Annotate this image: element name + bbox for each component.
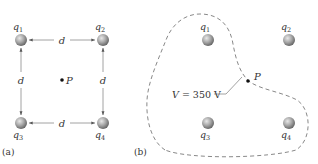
svg-text:q3: q3 (13, 129, 23, 142)
charge-sphere (15, 34, 27, 46)
svg-text:q3: q3 (200, 129, 210, 142)
charge-sphere (15, 117, 27, 129)
charge-q1: q1 (13, 21, 27, 46)
svg-text:q2: q2 (281, 21, 291, 34)
svg-text:q4: q4 (281, 129, 291, 142)
electric-potential-figure: d d d d q1 q2 q3 q4 P (a) V = 350 V (0, 0, 318, 164)
svg-text:q4: q4 (95, 129, 105, 142)
charge-q1: q1 (200, 21, 214, 46)
charge-q4: q4 (281, 117, 295, 142)
charge-q2: q2 (95, 21, 109, 46)
charge-subscript: 1 (19, 26, 23, 34)
charge-subscript: 2 (101, 26, 105, 34)
charge-q2: q2 (281, 21, 295, 46)
equipotential-label: V = 350 V (172, 89, 221, 100)
point-p-label: P (253, 71, 261, 82)
svg-text:q2: q2 (95, 21, 105, 34)
charge-q3: q3 (13, 117, 27, 142)
svg-text:q1: q1 (200, 21, 210, 34)
charge-sphere (97, 117, 109, 129)
charge-sphere (202, 117, 214, 129)
charge-sphere (202, 34, 214, 46)
panel-a: d d d d q1 q2 q3 q4 P (a) (2, 21, 109, 157)
distance-label-bottom: d (59, 118, 65, 129)
point-p-dot (60, 78, 64, 82)
svg-text:q1: q1 (13, 21, 23, 34)
panel-b-caption: (b) (134, 147, 147, 157)
distance-label-right: d (100, 75, 106, 86)
charge-subscript: 3 (19, 134, 23, 142)
point-p-dot (246, 79, 250, 83)
charge-q4: q4 (95, 117, 109, 142)
distance-label-left: d (18, 75, 24, 86)
point-p-label: P (65, 75, 73, 86)
panel-b: V = 350 V q1 q2 q3 q4 P (b) (134, 14, 308, 157)
charge-sphere (283, 34, 295, 46)
charge-subscript: 2 (287, 26, 291, 34)
charge-subscript: 4 (101, 134, 105, 142)
charge-subscript: 3 (206, 134, 210, 142)
charge-sphere (283, 117, 295, 129)
charge-sphere (97, 34, 109, 46)
panel-a-caption: (a) (2, 147, 14, 157)
charge-q3: q3 (200, 117, 214, 142)
distance-label-top: d (59, 35, 65, 46)
charge-subscript: 1 (206, 26, 210, 34)
charge-subscript: 4 (287, 134, 291, 142)
